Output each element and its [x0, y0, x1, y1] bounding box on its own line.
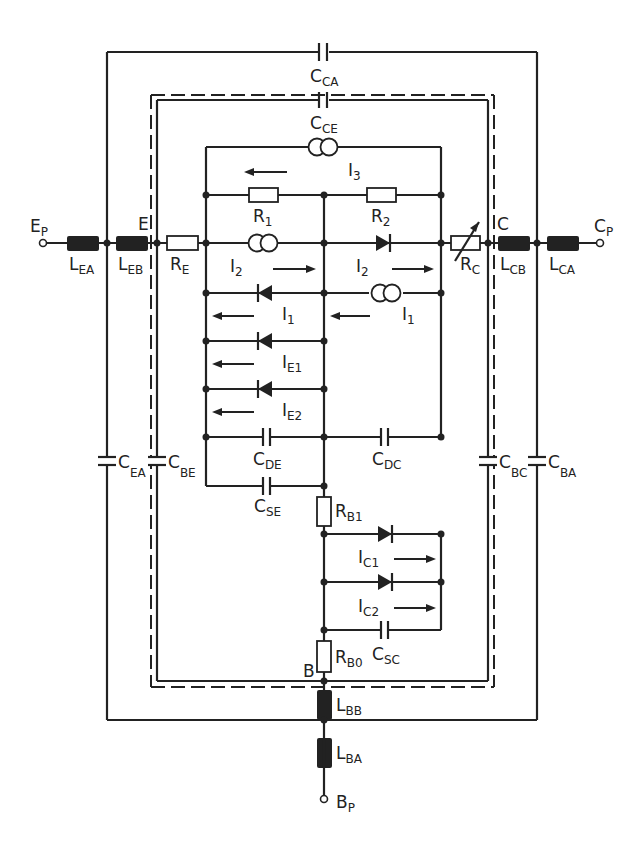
base-package-terminal — [321, 796, 328, 803]
label-l-eb: LEB — [118, 254, 143, 277]
label-c-sc: CSC — [372, 644, 400, 667]
label-base-internal: B — [303, 661, 315, 681]
label-emitter-package: EP — [30, 216, 48, 239]
capacitor-c-be — [148, 456, 166, 466]
resistor-r-e — [167, 236, 198, 250]
label-collector-package: CP — [594, 216, 613, 239]
label-l-bb: LBB — [336, 695, 362, 718]
inductor-l-cb — [498, 236, 530, 251]
label-c-se: CSE — [254, 496, 281, 519]
emitter-package-terminal — [40, 240, 47, 247]
current-source-i2 — [249, 235, 278, 252]
label-i-e2: IE2 — [282, 400, 302, 423]
label-i-1-left: I1 — [282, 304, 295, 327]
label-i-2-right: I2 — [356, 256, 369, 279]
label-l-ba: LBA — [336, 743, 363, 766]
label-i-2-left: I2 — [230, 256, 243, 279]
label-c-ca: CCA — [310, 66, 339, 89]
label-r-b0: RB0 — [335, 647, 363, 670]
capacitor-c-ea — [98, 456, 116, 466]
label-c-bc: CBC — [499, 452, 527, 480]
inductor-l-bb — [317, 690, 332, 720]
diode-main — [376, 234, 390, 252]
resistor-r-b0 — [317, 641, 331, 672]
label-i-1-right: I1 — [402, 304, 415, 327]
capacitor-c-ca — [319, 43, 327, 61]
capacitor-c-ba — [528, 456, 546, 466]
capacitor-c-de — [263, 428, 270, 446]
collector-package-terminal — [597, 240, 604, 247]
label-c-ce: CCE — [310, 113, 338, 136]
diode-ie1 — [258, 332, 272, 350]
label-c-dc: CDC — [372, 449, 402, 472]
label-r-b1: RB1 — [335, 501, 363, 524]
label-i-3: I3 — [348, 160, 361, 183]
label-c-de: CDE — [253, 449, 282, 472]
label-l-ca: LCA — [549, 254, 576, 277]
inductor-l-ea — [67, 236, 99, 251]
inductor-l-ca — [547, 236, 579, 251]
current-source-i3 — [309, 139, 338, 156]
diode-ic1 — [378, 525, 392, 543]
label-c-ea: CEA — [118, 452, 146, 480]
label-r-2: R2 — [371, 206, 390, 229]
label-l-cb: LCB — [500, 254, 526, 277]
capacitor-c-bc — [479, 456, 497, 466]
diode-ic2 — [378, 573, 392, 591]
label-c-be: CBE — [168, 452, 196, 480]
label-c-ba: CBA — [548, 452, 577, 480]
capacitor-c-se — [263, 477, 270, 495]
resistor-r-b1 — [317, 497, 331, 526]
capacitor-c-sc — [381, 621, 388, 639]
label-l-ea: LEA — [69, 254, 95, 277]
label-i-c2: IC2 — [358, 596, 379, 619]
capacitor-c-dc — [381, 428, 388, 446]
label-i-c1: IC1 — [358, 547, 379, 570]
label-emitter-internal: E — [138, 214, 149, 234]
resistor-r-1 — [249, 188, 278, 202]
diode-i1 — [258, 284, 272, 302]
current-source-i1 — [369, 283, 403, 303]
inductor-l-eb — [116, 236, 148, 251]
label-base-package: BP — [336, 792, 355, 815]
label-r-1: R1 — [253, 206, 272, 229]
diode-ie2 — [258, 380, 272, 398]
label-collector-internal: C — [497, 214, 509, 234]
label-r-e: RE — [170, 254, 189, 277]
label-r-c: RC — [460, 254, 480, 277]
label-i-e1: IE1 — [282, 352, 302, 375]
resistor-r-2 — [367, 188, 396, 202]
circuit-diagram: EP CP BP E C B CCA CCE CEA CBE CBC CBA C… — [0, 0, 643, 845]
